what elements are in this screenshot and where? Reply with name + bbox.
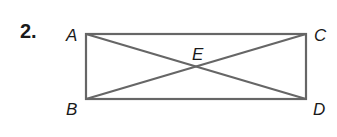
vertex-label-a: A xyxy=(66,27,77,44)
rectangle-diagram xyxy=(0,0,337,137)
intersection-label-e: E xyxy=(192,46,203,63)
vertex-label-c: C xyxy=(314,27,326,44)
vertex-label-b: B xyxy=(66,101,77,118)
vertex-label-d: D xyxy=(313,101,325,118)
